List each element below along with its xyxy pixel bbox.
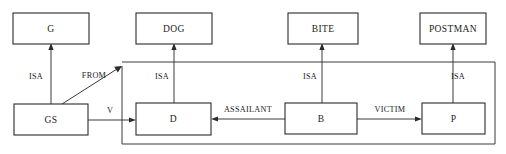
node-dog[interactable]: DOG: [136, 13, 212, 44]
node-dog-label: DOG: [163, 24, 185, 34]
edge-from-gs-d: FROM: [62, 66, 122, 104]
edge-label-isa-p-postman: ISA: [451, 72, 465, 81]
edge-victim-b-p: VICTIM: [357, 105, 422, 122]
edge-label-isa-gs-g: ISA: [29, 72, 43, 81]
node-d-label: D: [170, 114, 177, 124]
diagram-canvas: ISA ISA ISA ISA FROM V: [0, 0, 506, 154]
edge-v-gs-d: V: [88, 106, 136, 123]
node-b-label: B: [318, 114, 325, 124]
edge-label-v-gs-d: V: [107, 106, 113, 115]
edge-isa-b-bite: ISA: [303, 43, 325, 103]
node-g[interactable]: G: [13, 13, 89, 44]
node-p[interactable]: P: [422, 103, 485, 134]
node-postman[interactable]: POSTMAN: [420, 13, 486, 44]
edge-label-isa-b-bite: ISA: [303, 72, 317, 81]
arrowhead-from-gs-d: [114, 66, 122, 72]
arrowhead-assailant-b-d: [211, 116, 218, 121]
node-d[interactable]: D: [136, 103, 211, 135]
node-bite-label: BITE: [312, 24, 335, 34]
edge-label-victim-b-p: VICTIM: [375, 105, 406, 114]
arrowhead-v-gs-d: [129, 117, 136, 122]
node-b[interactable]: B: [285, 103, 357, 134]
node-gs[interactable]: GS: [14, 104, 88, 135]
edge-assailant-b-d: ASSAILANT: [211, 105, 285, 122]
edge-isa-d-dog: ISA: [155, 43, 177, 103]
edge-isa-gs-g: ISA: [29, 43, 54, 104]
node-p-label: P: [451, 114, 457, 124]
node-gs-label: GS: [45, 115, 58, 125]
arrowhead-victim-b-p: [415, 116, 422, 121]
node-g-label: G: [47, 24, 54, 34]
edge-label-from-gs-d: FROM: [82, 71, 107, 80]
edge-isa-p-postman: ISA: [450, 43, 465, 103]
edge-label-isa-d-dog: ISA: [155, 72, 169, 81]
node-postman-label: POSTMAN: [429, 24, 477, 34]
semantic-network-diagram: ISA ISA ISA ISA FROM V: [0, 0, 506, 154]
node-bite[interactable]: BITE: [288, 13, 358, 44]
edge-label-assailant-b-d: ASSAILANT: [224, 105, 272, 114]
